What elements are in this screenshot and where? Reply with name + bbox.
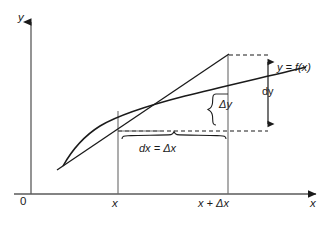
delta-y-brace — [208, 94, 216, 125]
differential-diagram: y x 0 x x + Δx y = f(x) dy Δy dx = Δx — [0, 0, 330, 235]
dy-label: dy — [262, 86, 274, 97]
delta-y-label: Δy — [219, 99, 232, 110]
dx-brace — [122, 132, 226, 139]
dx-equals-delta-x-label: dx = Δx — [139, 143, 176, 154]
origin-label: 0 — [20, 196, 26, 208]
diagram-canvas — [0, 0, 330, 235]
function-label: y = f(x) — [277, 62, 311, 73]
function-curve — [63, 67, 306, 166]
x-plus-delta-x-tick-label: x + Δx — [198, 198, 229, 209]
x-tick-label: x — [112, 198, 118, 210]
y-axis-label: y — [18, 12, 24, 24]
x-axis-label: x — [310, 198, 316, 210]
